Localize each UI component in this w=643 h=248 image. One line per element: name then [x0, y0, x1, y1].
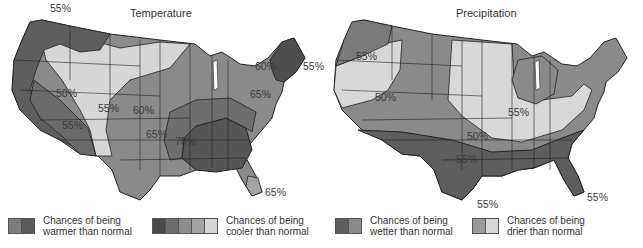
swatch: [22, 219, 34, 233]
legend-cooler-text: Chances of being cooler than normal: [226, 215, 309, 237]
swatch: [205, 219, 217, 233]
precipitation-label-55-s: 55%: [456, 153, 477, 165]
precipitation-label-55-fl: 55%: [587, 191, 608, 203]
legend-warmer: Chances of being warmer than normal: [8, 215, 132, 237]
legend-wetter-swatches: [335, 218, 362, 234]
temperature-label-65-fl: 65%: [265, 186, 286, 198]
legend-line: Chances of being: [507, 215, 585, 226]
temperature-map-panel: Temperature 55% 60% 55% 65% 50% 55% 60% …: [0, 0, 322, 248]
legend-line: drier than normal: [507, 226, 585, 237]
legend-drier-text: Chances of being drier than normal: [507, 215, 585, 237]
legend-line: Chances of being: [226, 215, 309, 226]
precipitation-label-50-c: 50%: [467, 130, 488, 142]
legend-line: Chances of being: [43, 215, 132, 226]
precipitation-map: [322, 0, 643, 210]
legend-cooler-swatches: [152, 218, 218, 234]
temperature-label-55-sw: 55%: [62, 119, 83, 131]
swatch: [166, 219, 179, 233]
swatch: [336, 219, 349, 233]
temperature-map: [0, 0, 322, 210]
legend-wetter-text: Chances of being wetter than normal: [370, 215, 453, 237]
temperature-label-65-ne: 65%: [250, 88, 271, 100]
legend-cooler: Chances of being cooler than normal: [152, 215, 309, 237]
legend-warmer-swatches: [8, 218, 35, 234]
swatch: [179, 219, 192, 233]
temperature-label-55-ne: 55%: [303, 60, 324, 72]
temperature-label-70-se: 70%: [175, 135, 196, 147]
temperature-label-65-s: 65%: [146, 128, 167, 140]
legend-warmer-text: Chances of being warmer than normal: [43, 215, 132, 237]
precipitation-label-55-nw: 55%: [356, 50, 377, 62]
swatch: [153, 219, 166, 233]
legend-line: cooler than normal: [226, 226, 309, 237]
legend-line: Chances of being: [370, 215, 453, 226]
temperature-label-60-ne: 60%: [255, 60, 276, 72]
precipitation-label-55-tx: 55%: [477, 198, 498, 210]
temperature-label-55-c: 55%: [98, 102, 119, 114]
swatch: [9, 219, 22, 233]
swatch: [349, 219, 361, 233]
precipitation-label-55-mw: 55%: [508, 106, 529, 118]
temperature-label-50-w: 50%: [56, 87, 77, 99]
swatch: [473, 219, 486, 233]
legend-drier-swatches: [472, 218, 499, 234]
legend-line: wetter than normal: [370, 226, 453, 237]
swatch: [192, 219, 205, 233]
precipitation-map-panel: Precipitation 55% 50% 55% 50% 55% 55% 55…: [322, 0, 643, 248]
temperature-label-60-c: 60%: [133, 104, 154, 116]
temperature-label-55-nw: 55%: [50, 2, 71, 14]
legend-drier: Chances of being drier than normal: [472, 215, 585, 237]
swatch: [486, 219, 498, 233]
legend-wetter: Chances of being wetter than normal: [335, 215, 453, 237]
legend-line: warmer than normal: [43, 226, 132, 237]
precipitation-label-50-w: 50%: [375, 91, 396, 103]
